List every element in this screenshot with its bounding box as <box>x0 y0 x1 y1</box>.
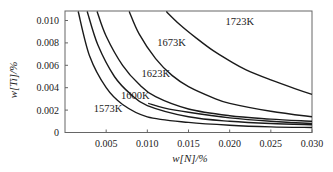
y-axis: 00.0020.0040.0060.0080.010 <box>37 15 69 138</box>
chart: 0.0050.0100.0150.0200.0250.030 00.0020.0… <box>0 0 333 172</box>
x-tick-label: 0.025 <box>260 138 283 149</box>
curve-label-1673k: 1673K <box>157 37 186 48</box>
curve-label-1723k: 1723K <box>226 16 255 27</box>
y-tick-label: 0.004 <box>37 82 60 93</box>
curve-1623k <box>97 12 312 122</box>
y-tick-label: 0.010 <box>37 15 60 26</box>
y-tick-label: 0 <box>54 127 59 138</box>
curve-label-1573k: 1573K <box>94 103 123 114</box>
y-tick-label: 0.008 <box>37 37 60 48</box>
x-tick-label: 0.020 <box>218 138 241 149</box>
curve-1673k <box>129 12 312 117</box>
x-tick-label: 0.015 <box>177 138 200 149</box>
curve-labels: 1573K1623K1600K1673K1723K <box>94 16 255 114</box>
x-tick-label: 0.005 <box>95 138 118 149</box>
y-axis-label: w[Ti]/% <box>7 62 19 99</box>
curve-label-1600k: 1600K <box>121 90 150 101</box>
x-tick-label: 0.030 <box>301 138 324 149</box>
curve-label-1623k: 1623K <box>142 68 171 79</box>
x-axis-label: w[N]/% <box>172 152 207 164</box>
y-tick-label: 0.006 <box>37 60 60 71</box>
x-tick-label: 0.010 <box>136 138 159 149</box>
y-tick-label: 0.002 <box>37 105 60 116</box>
